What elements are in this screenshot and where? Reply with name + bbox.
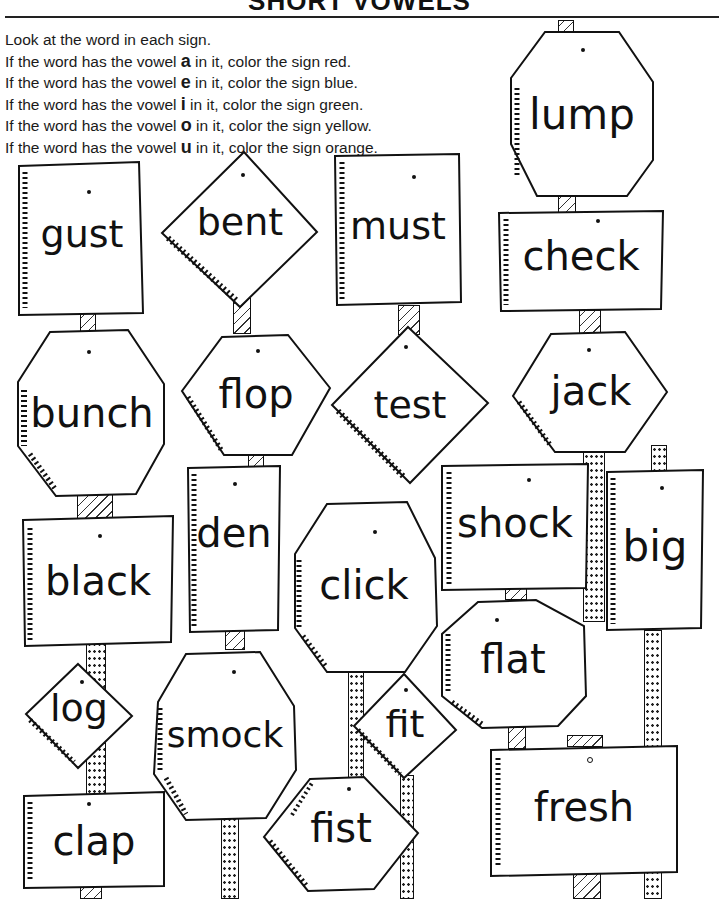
sign-test[interactable]: test <box>330 325 490 485</box>
sign-word: fist <box>262 805 420 851</box>
sign-word: click <box>289 562 439 608</box>
sign-flat[interactable]: flat <box>438 598 588 730</box>
sign-word: clap <box>22 818 166 864</box>
sign-must[interactable]: must <box>333 152 463 307</box>
sign-lump[interactable]: lump <box>507 28 657 198</box>
sign-word: check <box>497 233 665 279</box>
sign-click[interactable]: click <box>289 500 439 675</box>
sign-word: gust <box>17 212 147 256</box>
sign-word: bunch <box>16 390 168 436</box>
sign-fit[interactable]: fit <box>352 672 458 780</box>
sign-word: big <box>605 522 705 571</box>
sign-word: test <box>330 383 490 427</box>
sign-word: smock <box>152 714 298 755</box>
sign-shock[interactable]: shock <box>440 462 590 592</box>
sign-log[interactable]: log <box>24 662 134 770</box>
sign-bent[interactable]: bent <box>160 150 320 310</box>
sign-check[interactable]: check <box>497 209 665 313</box>
sign-flop[interactable]: flop <box>180 333 332 458</box>
sign-word: jack <box>511 368 671 414</box>
sign-word: must <box>333 204 463 248</box>
sign-den[interactable]: den <box>186 466 282 634</box>
sign-black[interactable]: black <box>21 514 175 649</box>
sign-word: black <box>21 558 175 604</box>
sign-word: den <box>186 510 282 556</box>
signs-scene: lump gust bent must check bunch flop tes… <box>0 0 719 899</box>
sign-fresh[interactable]: fresh <box>489 744 679 879</box>
sign-word: fit <box>352 702 458 746</box>
sign-word: log <box>24 686 134 730</box>
sign-word: flop <box>180 371 332 417</box>
sign-word: flat <box>438 636 588 682</box>
sign-word: shock <box>440 500 590 546</box>
sign-word: bent <box>160 200 320 244</box>
post <box>221 815 239 899</box>
sign-big[interactable]: big <box>605 470 705 632</box>
sign-clap[interactable]: clap <box>22 790 166 890</box>
sign-fist[interactable]: fist <box>262 775 420 893</box>
sign-word: fresh <box>489 784 679 830</box>
sign-gust[interactable]: gust <box>17 160 147 317</box>
sign-jack[interactable]: jack <box>511 330 671 455</box>
sign-word: lump <box>507 90 657 139</box>
sign-bunch[interactable]: bunch <box>16 328 168 498</box>
